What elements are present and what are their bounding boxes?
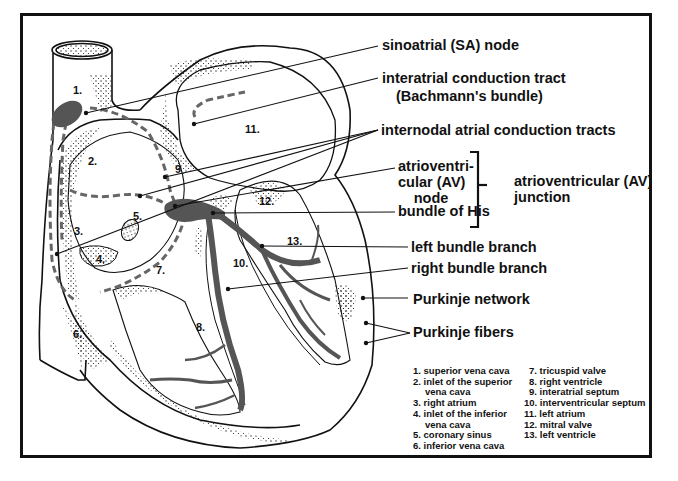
legend-text: 4. inlet of the inferior (413, 409, 512, 420)
callout-av-node: atrioventri- cular (AV) node (398, 158, 464, 206)
callout-right-bundle-branch: right bundle branch (411, 260, 547, 276)
legend-column-1: 1. superior vena cava 2. inlet of the su… (413, 366, 512, 452)
region-11-label: 11. (245, 123, 260, 135)
region-4-label: 4. (96, 253, 105, 265)
legend-item: 4. inlet of the inferiorvena cava (413, 409, 512, 430)
av-junction-line-2: junction (514, 189, 652, 205)
legend-item: 6. inferior vena cava (413, 441, 512, 452)
callout-left-bundle-branch: left bundle branch (411, 239, 537, 255)
av-node-line-2: cular (AV) (398, 174, 464, 190)
callout-av-junction: atrioventricular (AV) junction (514, 173, 652, 205)
region-12-label: 12. (259, 195, 274, 207)
legend-column-2: 7. tricuspid valve 8. right ventricle 9.… (524, 366, 645, 441)
region-5-label: 5. (133, 210, 142, 222)
callout-purkinje-network: Purkinje network (413, 291, 530, 307)
region-2-label: 2. (88, 155, 97, 167)
region-10-label: 10. (233, 257, 248, 269)
av-junction-line-1: atrioventricular (AV) (514, 173, 652, 189)
callout-bundle-of-his: bundle of His (398, 203, 490, 219)
region-6-label: 6. (73, 328, 82, 340)
callout-interatrial-tract: interatrial conduction tract (382, 70, 566, 86)
region-1-label: 1. (73, 84, 82, 96)
legend-item: 13. left ventricle (524, 430, 645, 441)
region-13-label: 13. (287, 235, 302, 247)
legend-text: 6. inferior vena cava (413, 441, 512, 452)
region-7-label: 7. (156, 264, 165, 276)
legend-item: 11. left atrium (524, 409, 645, 420)
callout-bachmanns-bundle: (Bachmann's bundle) (396, 88, 543, 104)
callout-sa-node: sinoatrial (SA) node (382, 37, 519, 53)
callout-purkinje-fibers: Purkinje fibers (413, 324, 514, 340)
region-3-label: 3. (74, 225, 83, 237)
region-9-label: 9 (175, 163, 181, 175)
legend-item: 2. inlet of the superiorvena cava (413, 377, 512, 398)
callout-internodal-tracts: internodal atrial conduction tracts (381, 122, 615, 138)
av-node-line-1: atrioventri- (398, 158, 464, 174)
conduction-system (150, 199, 340, 410)
region-8-label: 8. (196, 321, 205, 333)
